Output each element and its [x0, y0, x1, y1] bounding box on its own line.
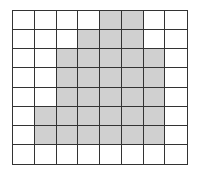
grid-cell-empty [57, 11, 79, 30]
grid-cell-shaded [122, 11, 144, 30]
grid-cell-shaded [100, 126, 122, 145]
grid-cell-shaded [100, 68, 122, 87]
grid-cell-shaded [100, 107, 122, 126]
grid-cell-shaded [144, 88, 166, 107]
grid-cell-empty [165, 88, 187, 107]
grid-cell-empty [122, 145, 144, 164]
grid-cell-empty [13, 88, 35, 107]
grid-cell-shaded [100, 30, 122, 49]
grid-cell-shaded [78, 107, 100, 126]
grid-cell-shaded [122, 107, 144, 126]
grid-cell-shaded [78, 88, 100, 107]
grid-cell-empty [35, 88, 57, 107]
grid-cell-empty [144, 145, 166, 164]
grid-cell-empty [78, 11, 100, 30]
grid-cell-empty [35, 11, 57, 30]
grid-cell-shaded [57, 68, 79, 87]
grid-cell-shaded [78, 68, 100, 87]
shaded-grid-diagram [12, 10, 188, 165]
grid-cell-shaded [144, 126, 166, 145]
grid-cell-empty [165, 126, 187, 145]
grid-cell-shaded [35, 107, 57, 126]
grid-cell-shaded [57, 126, 79, 145]
grid-cell-empty [165, 107, 187, 126]
grid-cell-shaded [122, 49, 144, 68]
grid-cell-empty [13, 68, 35, 87]
grid-cell-shaded [78, 126, 100, 145]
grid-cell-empty [57, 30, 79, 49]
grid-cell-empty [165, 11, 187, 30]
grid-cell-shaded [144, 49, 166, 68]
grid-cell-shaded [122, 68, 144, 87]
grid-cell-shaded [122, 88, 144, 107]
grid-cell-shaded [35, 126, 57, 145]
grid-cell-shaded [57, 88, 79, 107]
grid-cell-empty [165, 145, 187, 164]
grid-cell-empty [144, 30, 166, 49]
grid-cell-empty [35, 145, 57, 164]
grid-cell-shaded [78, 49, 100, 68]
grid-cell-empty [13, 107, 35, 126]
grid-cell-shaded [100, 88, 122, 107]
grid-cell-empty [165, 30, 187, 49]
grid-cell-empty [13, 145, 35, 164]
grid-cell-shaded [100, 49, 122, 68]
grid-cell-shaded [144, 68, 166, 87]
grid-cell-empty [144, 11, 166, 30]
grid-cell-empty [35, 49, 57, 68]
grid-cell-empty [100, 145, 122, 164]
grid-cell-shaded [144, 107, 166, 126]
grid-cell-shaded [100, 11, 122, 30]
grid-cell-empty [35, 30, 57, 49]
grid-cell-shaded [57, 107, 79, 126]
grid-cell-empty [13, 30, 35, 49]
grid-cell-empty [13, 126, 35, 145]
grid-cell-empty [13, 49, 35, 68]
grid-cell-empty [78, 145, 100, 164]
grid-cell-shaded [78, 30, 100, 49]
grid-cell-empty [165, 49, 187, 68]
grid-cell-shaded [122, 126, 144, 145]
grid-cell-empty [165, 68, 187, 87]
grid-cell-empty [13, 11, 35, 30]
grid-cell-empty [57, 145, 79, 164]
grid-cell-shaded [57, 49, 79, 68]
grid-cell-shaded [122, 30, 144, 49]
grid-cell-empty [35, 68, 57, 87]
